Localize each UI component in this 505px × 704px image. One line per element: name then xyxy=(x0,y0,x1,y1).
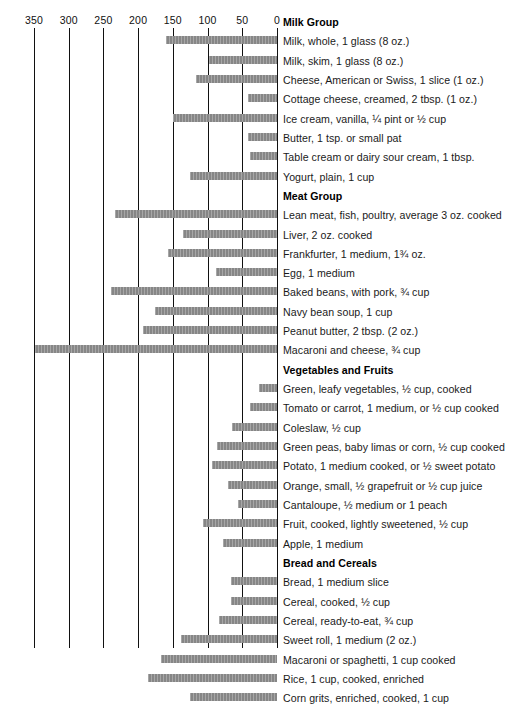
bar-label: Apple, 1 medium xyxy=(283,538,363,550)
bar-label: Orange, small, ½ grapefruit or ½ cup jui… xyxy=(283,480,482,492)
bar-label: Potato, 1 medium cooked, or ½ sweet pota… xyxy=(283,460,495,472)
bar-label: Cheese, American or Swiss, 1 slice (1 oz… xyxy=(283,74,484,86)
bar-label: Frankfurter, 1 medium, 1¾ oz. xyxy=(283,248,426,260)
bar-label: Corn grits, enriched, cooked, 1 cup xyxy=(283,692,449,704)
bar-label: Baked beans, with pork, ¾ cup xyxy=(283,286,429,298)
bar-label: Lean meat, fish, poultry, average 3 oz. … xyxy=(283,209,502,221)
group-heading: Vegetables and Fruits xyxy=(283,364,394,376)
bar-label: Tomato or carrot, 1 medium, or ½ cup coo… xyxy=(283,402,499,414)
bar-label: Liver, 2 oz. cooked xyxy=(283,229,372,241)
bar-label: Milk, skim, 1 glass (8 oz.) xyxy=(283,55,403,67)
bar xyxy=(148,674,277,682)
bar-label: Butter, 1 tsp. or small pat xyxy=(283,132,402,144)
bar-label: Cottage cheese, creamed, 2 tbsp. (1 oz.) xyxy=(283,93,477,105)
bar xyxy=(190,693,277,701)
bar-label: Macaroni or spaghetti, 1 cup cooked xyxy=(283,654,456,666)
bar-label: Milk, whole, 1 glass (8 oz.) xyxy=(283,35,409,47)
bar-label: Egg, 1 medium xyxy=(283,267,355,279)
bar-label: Navy bean soup, 1 cup xyxy=(283,306,392,318)
group-heading: Meat Group xyxy=(283,190,342,202)
bar-label: Green peas, baby limas or corn, ½ cup co… xyxy=(283,441,505,453)
bar-label: Yogurt, plain, 1 cup xyxy=(283,171,374,183)
bar-label: Bread, 1 medium slice xyxy=(283,576,389,588)
group-heading: Milk Group xyxy=(283,16,339,28)
bar-label: Macaroni and cheese, ¾ cup xyxy=(283,344,420,356)
bar-label: Rice, 1 cup, cooked, enriched xyxy=(283,673,424,685)
bar-label: Cereal, ready-to-eat, ¾ cup xyxy=(283,615,413,627)
bar-label: Cereal, cooked, ½ cup xyxy=(283,596,390,608)
bar-label: Peanut butter, 2 tbsp. (2 oz.) xyxy=(283,325,418,337)
group-heading: Bread and Cereals xyxy=(283,557,377,569)
bar-label: Fruit, cooked, lightly sweetened, ½ cup xyxy=(283,518,468,530)
bar-label: Sweet roll, 1 medium (2 oz.) xyxy=(283,634,416,646)
bar-label: Table cream or dairy sour cream, 1 tbsp. xyxy=(283,151,475,163)
bar-label: Cantaloupe, ½ medium or 1 peach xyxy=(283,499,447,511)
bar-label: Green, leafy vegetables, ½ cup, cooked xyxy=(283,383,472,395)
bar-label: Coleslaw, ½ cup xyxy=(283,422,361,434)
bar-label: Ice cream, vanilla, ¼ pint or ½ cup xyxy=(283,113,446,125)
